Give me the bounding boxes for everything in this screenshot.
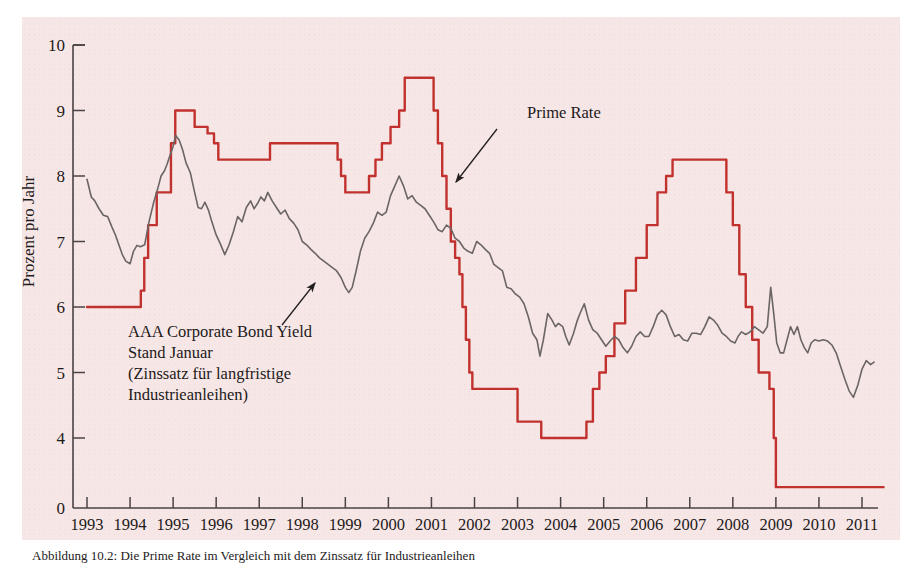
y-axis-tick-label: 4: [57, 429, 66, 448]
caption-text: Abbildung 10.2: Die Prime Rate im Vergle…: [32, 548, 475, 563]
x-axis-tick-label: 1998: [286, 515, 319, 534]
series-layer: [87, 78, 884, 487]
x-axis-tick-label: 2005: [587, 515, 620, 534]
axis-title-layer: Prozent pro Jahr: [19, 175, 38, 287]
line-chart: 4567891001993199419951996199719981999200…: [0, 0, 907, 563]
annotation-layer: Prime RateAAA Corporate Bond YieldStand …: [128, 103, 601, 404]
x-axis-tick-label: 2010: [802, 515, 835, 534]
x-axis-tick-label: 2001: [415, 515, 448, 534]
x-axis-tick-label: 2007: [673, 515, 706, 534]
aaa-bond-annotation-arrow: [282, 283, 315, 325]
y-axis-tick-label: 8: [57, 167, 66, 186]
aaa-bond-annotation-line: AAA Corporate Bond Yield: [128, 322, 313, 341]
x-axis-tick-label: 2011: [846, 515, 878, 534]
x-axis-tick-label: 2008: [716, 515, 749, 534]
x-axis-tick-label: 2002: [458, 515, 491, 534]
y-axis-title: Prozent pro Jahr: [19, 175, 38, 287]
x-axis-tick-label: 1996: [200, 515, 233, 534]
figure-container: 4567891001993199419951996199719981999200…: [0, 0, 907, 563]
y-axis-tick-label: 10: [48, 36, 65, 55]
x-axis-tick-label: 1999: [329, 515, 362, 534]
x-axis-tick-label: 2000: [372, 515, 405, 534]
figure-caption: Abbildung 10.2: Die Prime Rate im Vergle…: [0, 548, 907, 563]
x-axis-tick-label: 1994: [114, 515, 147, 534]
y-axis-tick-label: 5: [57, 364, 66, 383]
y-axis-tick-label: 9: [57, 102, 66, 121]
x-axis-tick-label: 2006: [630, 515, 663, 534]
y-axis-zero-label: 0: [57, 499, 66, 518]
aaa-bond-annotation-line: (Zinssatz für langfristige: [128, 364, 291, 383]
x-axis-tick-label: 2009: [759, 515, 792, 534]
aaa-bond-annotation-line: Industrieanleihen): [128, 385, 248, 404]
x-axis-tick-label: 1995: [157, 515, 190, 534]
x-axis-tick-label: 1997: [243, 515, 276, 534]
aaa-bond-annotation-line: Stand Januar: [128, 343, 213, 362]
prime-rate-annotation-arrow: [456, 129, 497, 182]
x-axis-tick-label: 2003: [501, 515, 534, 534]
x-axis-tick-label: 2004: [544, 515, 577, 534]
prime-rate-line: [87, 78, 884, 487]
prime-rate-annotation-label: Prime Rate: [527, 103, 601, 122]
y-axis-tick-label: 7: [57, 233, 66, 252]
x-axis-tick-label: 1993: [71, 515, 104, 534]
y-axis-tick-label: 6: [57, 298, 66, 317]
